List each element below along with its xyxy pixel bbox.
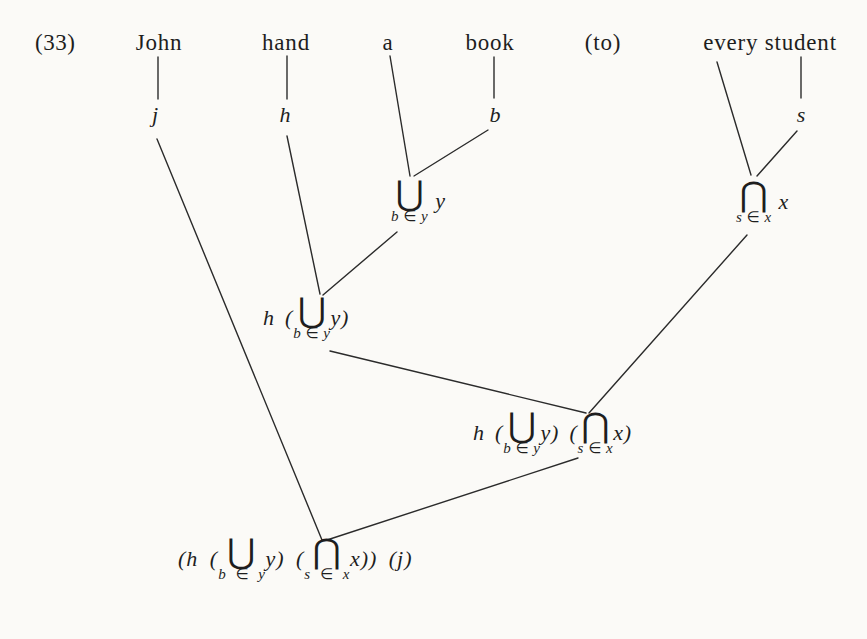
intersection-subscript: s ∈ x [736,210,772,225]
word-john: John [136,30,183,56]
constant-b: b [490,102,501,128]
hui-intersection-subscript: s ∈ x [578,441,614,456]
hui-union-stack: ⋃ b ∈ y [503,412,540,456]
result-suffix: x)) (j) [350,548,413,570]
hui-intersection-stack: ⋂ s ∈ x [578,412,614,456]
hui-union-subscript: b ∈ y [503,441,540,456]
hui-prefix: h ( [473,422,503,444]
node-intersection: ⋂ s ∈ x x [736,181,789,225]
node-h-union-intersection: h ( ⋃ b ∈ y y) ( ⋂ s ∈ x x) [473,412,632,456]
node-union: ⋃ b ∈ y y [391,180,446,224]
h-union-operator-stack: ⋃ b ∈ y [293,297,330,341]
example-number: (33) [35,30,75,56]
result-union-subscript: b ∈ y [218,567,265,582]
edge-hunion-hunionintersection [330,351,586,413]
edge-hunionintersection-result [327,458,578,540]
edge-intersection-hunionintersection [589,235,747,413]
intersection-icon: ⋂ [740,181,768,209]
intersection-argument: x [779,191,790,213]
edge-h-hunion [287,136,320,294]
edge-union-hunion [323,232,397,295]
node-h-union: h ( ⋃ b ∈ y y) [263,297,349,341]
intersection-icon: ⋂ [313,538,342,566]
result-mid: y) ( [265,548,304,570]
h-union-suffix: y) [330,307,349,329]
union-icon: ⋃ [508,412,536,440]
h-union-prefix: h ( [263,307,293,329]
hui-suffix: x) [613,422,632,444]
word-every-student: every student [703,30,837,56]
word-hand: hand [262,30,310,56]
union-icon: ⋃ [227,538,256,566]
result-intersection-subscript: s ∈ x [304,567,350,582]
word-a: a [382,30,393,56]
result-union-stack: ⋃ b ∈ y [218,538,265,582]
edge-s-intersection [757,131,797,176]
edge-b-union [414,130,488,176]
edge-a-union [390,56,410,176]
union-icon: ⋃ [396,180,424,208]
edge-every-intersection [717,62,751,175]
result-prefix: (h ( [178,548,218,570]
word-to: (to) [585,30,621,56]
word-book: book [465,30,514,56]
union-operator-stack: ⋃ b ∈ y [391,180,428,224]
union-subscript: b ∈ y [391,209,428,224]
intersection-icon: ⋂ [581,412,609,440]
tree-edges [0,0,867,639]
intersection-operator-stack: ⋂ s ∈ x [736,181,772,225]
constant-s: s [797,102,806,128]
node-result: (h ( ⋃ b ∈ y y) ( ⋂ s ∈ x x)) (j) [178,538,413,582]
constant-j: j [152,102,158,128]
constant-h: h [280,102,291,128]
hui-mid: y) ( [540,422,577,444]
scanned-figure-page: (33) John hand a book (to) every student… [0,0,867,639]
union-argument: y [435,190,446,212]
union-icon: ⋃ [298,297,326,325]
result-intersection-stack: ⋂ s ∈ x [304,538,350,582]
h-union-subscript: b ∈ y [293,326,330,341]
